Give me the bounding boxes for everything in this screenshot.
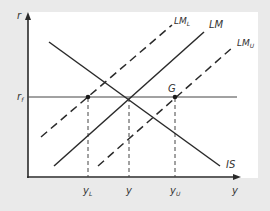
g-label: G [168,83,176,94]
rf-label: rf [17,91,24,103]
yl-tick-label: yL [82,185,92,197]
yu-tick-sub: U [176,190,181,197]
plot-area [28,12,258,178]
y-axis-label: r [17,10,22,21]
is-label: IS [226,159,236,170]
yu-tick-label: yU [169,185,181,197]
lm-l-label-sub: L [187,20,190,27]
yl-tick-sub: L [89,190,92,197]
lm-u-label-main: LM [237,38,250,48]
g-point [173,95,178,100]
lm-u-label-sub: U [250,42,255,49]
lm-label: LM [209,19,224,30]
x-axis-label: y [231,185,239,196]
y-tick-label: y [125,185,133,196]
lm-l-label-main: LM [174,16,187,26]
is-lm-diagram: r y rf LML LM LMU IS G yL y yU [0,0,270,211]
yl-point [86,95,91,100]
rf-label-sub: f [21,96,24,103]
